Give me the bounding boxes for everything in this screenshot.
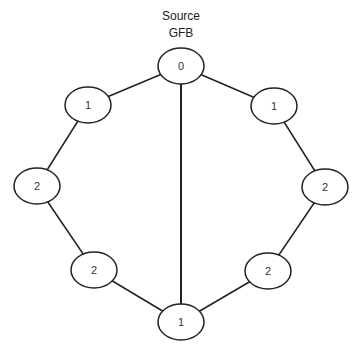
graph-node: 2 xyxy=(14,168,60,204)
node-label: 2 xyxy=(91,264,97,276)
node-label: 1 xyxy=(85,99,91,111)
graph-node: 2 xyxy=(71,252,117,288)
graph-node: 1 xyxy=(251,88,297,124)
node-label: 1 xyxy=(271,100,277,112)
graph-node: 0 xyxy=(158,48,204,84)
graph-node: 2 xyxy=(245,253,291,289)
node-label: 0 xyxy=(178,60,184,72)
node-label: 2 xyxy=(34,180,40,192)
graph-node: 2 xyxy=(302,169,348,205)
node-label: 2 xyxy=(322,181,328,193)
graph-node: 1 xyxy=(65,87,111,123)
graph-node: 1 xyxy=(158,304,204,340)
graph-diagram: 01221221 xyxy=(0,0,360,353)
node-label: 1 xyxy=(178,316,184,328)
node-label: 2 xyxy=(265,265,271,277)
